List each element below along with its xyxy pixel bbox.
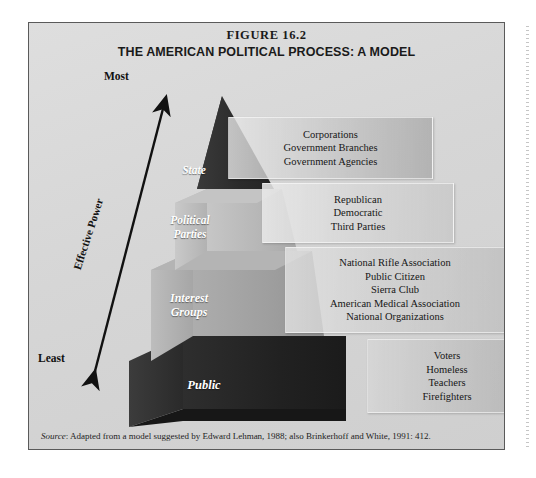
callout-parties-line-1: Republican [334,193,382,207]
callout-public-line-4: Firefighters [423,390,472,404]
tier-public-front-face [183,336,346,409]
callout-state-line-3: Government Agencies [284,155,378,169]
source-note-text: : Adapted from a model suggested by Edwa… [66,431,431,441]
callout-public-line-2: Homeless [426,363,467,377]
callout-box-political-parties: Republican Democratic Third Parties [262,183,454,243]
source-note: Source: Adapted from a model suggested b… [41,430,496,442]
callout-public-line-3: Teachers [428,376,465,390]
source-note-prefix: Source [41,431,66,441]
callout-box-public: Voters Homeless Teachers Firefighters [367,339,505,413]
callout-interest-line-3: Sierra Club [371,283,419,297]
callout-state-line-2: Government Branches [283,141,377,155]
figure-frame: FIGURE 16.2 THE AMERICAN POLITICAL PROCE… [28,22,505,450]
callout-box-interest-groups: National Rifle Association Public Citize… [285,247,505,333]
callout-interest-line-5: National Organizations [346,310,444,324]
tier-label-state: State [159,163,229,177]
tier-label-public: Public [159,378,249,392]
callout-box-state: Corporations Government Branches Governm… [228,117,433,179]
callout-interest-line-4: American Medical Association [330,297,460,311]
figure-number: FIGURE 16.2 [29,27,504,43]
page-title: THE AMERICAN POLITICAL PROCESS: A MODEL [29,44,504,61]
page-edge-strip [526,26,529,450]
figure-title-block: FIGURE 16.2 THE AMERICAN POLITICAL PROCE… [29,27,504,61]
axis-label-least: Least [38,352,65,364]
callout-public-line-1: Voters [434,349,461,363]
callout-interest-line-2: Public Citizen [365,270,425,284]
callout-interest-line-1: National Rifle Association [339,256,450,270]
callout-parties-line-3: Third Parties [331,220,386,234]
tier-label-interest-groups: Interest Groups [139,291,239,319]
callout-parties-line-2: Democratic [334,206,383,220]
axis-label-most: Most [104,70,129,82]
tier-label-political-parties: Political Parties [147,213,233,241]
callout-state-line-1: Corporations [303,128,358,142]
